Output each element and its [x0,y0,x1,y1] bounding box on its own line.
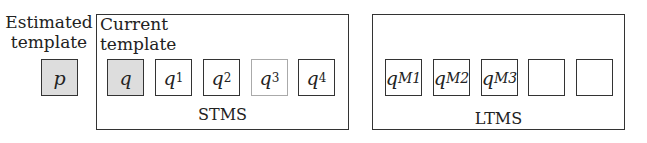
ltms-cell-3: qM3 [481,59,518,96]
cell-sub: 2 [224,71,232,85]
estimated-label-line1: Estimated [0,12,98,32]
cell-sub: 4 [319,71,327,85]
ltms-cell-2: qM2 [433,59,470,96]
ltms-cell-4 [528,59,565,96]
current-label-line1: Current [100,14,176,34]
cell-sub: M2 [446,70,469,86]
cell-base: q [212,67,224,89]
cell-base: q [164,67,176,89]
estimated-template-label: Estimated template [0,12,98,52]
cell-sub: M3 [494,70,517,86]
stms-label: STMS [96,105,349,124]
current-symbol: q [119,67,131,89]
estimated-template-cell: p [41,59,78,96]
stms-cell-2: q2 [203,59,240,96]
current-label-line2: template [100,34,176,54]
ltms-cell-5 [576,59,613,96]
cell-base: q [386,67,398,89]
ltms-cell-1: qM1 [385,59,422,96]
stms-cell-1: q1 [155,59,192,96]
estimated-symbol: p [53,67,65,89]
cell-sub: 3 [272,71,280,85]
current-template-cell: q [107,59,144,96]
cell-base: q [260,67,272,89]
cell-sub: 1 [176,71,184,85]
estimated-label-line2: template [0,32,98,52]
stms-cell-4: q4 [298,59,335,96]
cell-base: q [482,67,494,89]
ltms-label: LTMS [372,109,625,128]
stms-cell-3: q3 [251,59,288,96]
current-template-label: Current template [100,14,176,54]
cell-base: q [434,67,446,89]
cell-sub: M1 [398,70,421,86]
cell-base: q [307,67,319,89]
